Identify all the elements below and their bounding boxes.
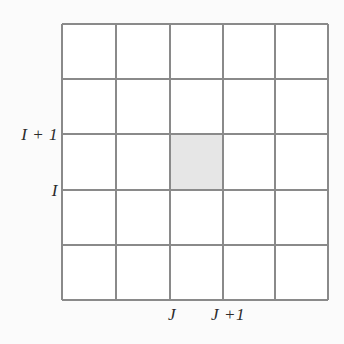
column-index-label-j-plus-1: J +1 (211, 306, 245, 323)
grid-canvas (0, 0, 344, 344)
highlighted-cell-I-J (170, 134, 223, 190)
row-index-label-i: I (52, 182, 58, 199)
column-index-label-j: J (168, 306, 176, 323)
grid-diagram-figure: I + 1 I J J +1 (0, 0, 344, 344)
row-index-label-i-plus-1: I + 1 (21, 126, 58, 143)
